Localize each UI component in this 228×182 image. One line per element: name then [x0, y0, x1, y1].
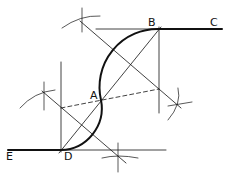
arc-mark-left [20, 90, 55, 108]
center-line-dashed [61, 89, 159, 108]
arc-mark-right [168, 88, 179, 120]
label-b: B [148, 16, 156, 29]
ogee-construction-diagram: A B C D E [0, 0, 228, 182]
label-d: D [64, 150, 72, 163]
bisector-ad [42, 91, 126, 163]
chord-bd [59, 27, 161, 153]
arc-tick-right [168, 102, 192, 106]
label-a: A [90, 89, 98, 102]
label-c: C [210, 16, 218, 29]
label-e: E [6, 150, 13, 163]
